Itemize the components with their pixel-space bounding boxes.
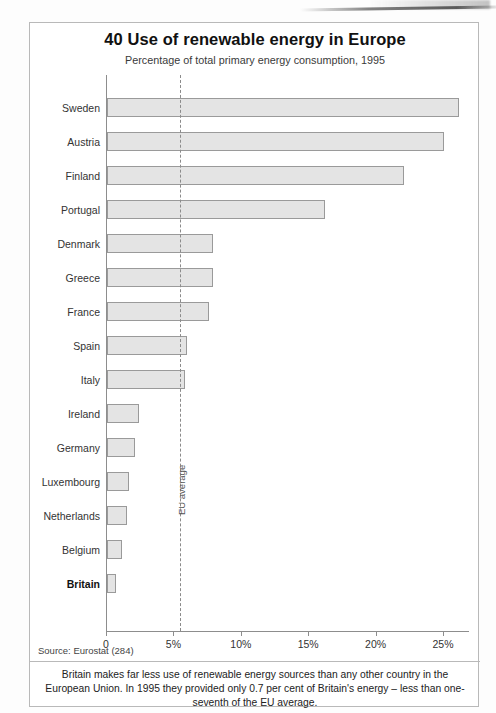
x-tick (443, 631, 444, 636)
category-label-sweden: Sweden (30, 91, 100, 125)
category-label-netherlands: Netherlands (30, 499, 100, 533)
bar-netherlands (107, 506, 127, 525)
x-tick-label: 25% (432, 638, 453, 650)
bar-row: Portugal (30, 193, 480, 227)
bar-row: Denmark (30, 227, 480, 261)
category-label-austria: Austria (30, 125, 100, 159)
bar-denmark (107, 234, 213, 253)
category-label-germany: Germany (30, 431, 100, 465)
bar-france (107, 302, 209, 321)
bar-row: Ireland (30, 397, 480, 431)
category-label-france: France (30, 295, 100, 329)
bar-row: Netherlands (30, 499, 480, 533)
eu-average-line (180, 75, 181, 631)
bar-ireland (107, 404, 139, 423)
category-label-britain: Britain (30, 567, 100, 601)
bar-sweden (107, 98, 459, 117)
source-note: Source: Eurostat (284) (38, 645, 134, 656)
bar-spain (107, 336, 187, 355)
chart-frame: 40 Use of renewable energy in Europe Per… (29, 22, 479, 707)
x-tick-label: 10% (230, 638, 251, 650)
category-label-ireland: Ireland (30, 397, 100, 431)
bar-row: Sweden (30, 91, 480, 125)
x-tick (106, 631, 107, 636)
bar-row: Luxembourg (30, 465, 480, 499)
category-label-denmark: Denmark (30, 227, 100, 261)
footer-divider (30, 661, 480, 662)
category-label-italy: Italy (30, 363, 100, 397)
scan-artifact-corner (370, 0, 490, 9)
x-tick-label: 15% (298, 638, 319, 650)
bar-row: Italy (30, 363, 480, 397)
bar-row: Finland (30, 159, 480, 193)
x-tick (376, 631, 377, 636)
bar-portugal (107, 200, 325, 219)
bar-row: Austria (30, 125, 480, 159)
bar-row: Germany (30, 431, 480, 465)
plot-area: SwedenAustriaFinlandPortugalDenmarkGreec… (30, 75, 480, 631)
category-label-finland: Finland (30, 159, 100, 193)
bar-row: Belgium (30, 533, 480, 567)
bar-germany (107, 438, 135, 457)
x-axis-line (106, 631, 469, 632)
bar-luxembourg (107, 472, 129, 491)
bar-italy (107, 370, 185, 389)
bar-row: Spain (30, 329, 480, 363)
bar-greece (107, 268, 213, 287)
category-label-luxembourg: Luxembourg (30, 465, 100, 499)
bar-row: Britain (30, 567, 480, 601)
bar-austria (107, 132, 444, 151)
x-tick (241, 631, 242, 636)
x-tick (173, 631, 174, 636)
chart-subtitle: Percentage of total primary energy consu… (30, 54, 480, 66)
x-tick-label: 20% (365, 638, 386, 650)
bar-row: Greece (30, 261, 480, 295)
category-label-portugal: Portugal (30, 193, 100, 227)
category-label-spain: Spain (30, 329, 100, 363)
bar-finland (107, 166, 404, 185)
bar-belgium (107, 540, 122, 559)
bar-row: France (30, 295, 480, 329)
x-tick (308, 631, 309, 636)
caption-text: Britain makes far less use of renewable … (40, 668, 470, 710)
chart-title: 40 Use of renewable energy in Europe (30, 30, 480, 49)
category-label-greece: Greece (30, 261, 100, 295)
bar-britain (107, 574, 116, 593)
eu-average-label: EU average (176, 465, 187, 515)
category-label-belgium: Belgium (30, 533, 100, 567)
x-tick-label: 5% (166, 638, 181, 650)
page-background: 40 Use of renewable energy in Europe Per… (0, 0, 496, 713)
